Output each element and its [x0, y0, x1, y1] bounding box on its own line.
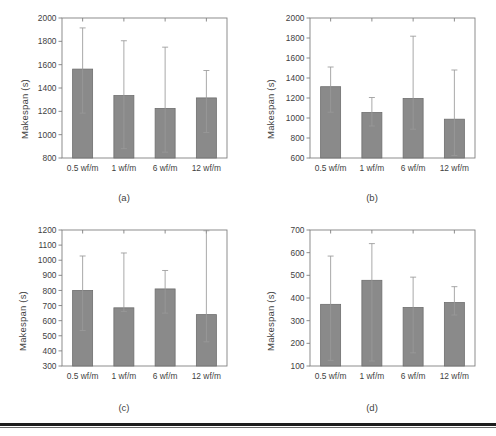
panel-a-caption: (a) — [0, 192, 248, 203]
y-tick-label: 800 — [43, 286, 57, 296]
bar — [114, 308, 134, 366]
panel-b-chart: 6008001000120014001600180020000.5 wf/m1 … — [270, 10, 478, 188]
x-category-label: 1 wf/m — [112, 371, 137, 381]
panel-c-caption: (c) — [0, 402, 248, 413]
x-category-label: 6 wf/m — [153, 371, 178, 381]
y-tick-label: 1800 — [286, 33, 305, 43]
x-category-label: 0.5 wf/m — [67, 163, 99, 173]
panel-b-plot-area: 6008001000120014001600180020000.5 wf/m1 … — [270, 10, 478, 188]
panel-d-chart: 1002003004005006007000.5 wf/m1 wf/m6 wf/… — [270, 222, 478, 394]
y-tick-label: 1200 — [38, 106, 57, 116]
x-category-label: 1 wf/m — [360, 163, 385, 173]
x-category-label: 12 wf/m — [192, 163, 221, 173]
y-tick-label: 1600 — [38, 60, 57, 70]
x-category-label: 0.5 wf/m — [315, 371, 347, 381]
y-tick-label: 300 — [291, 316, 305, 326]
x-category-label: 12 wf/m — [192, 371, 221, 381]
y-tick-label: 600 — [291, 248, 305, 258]
x-category-label: 12 wf/m — [440, 371, 469, 381]
panel-c: Makespan (s) 300400500600700800900100011… — [0, 212, 248, 430]
footer-divider-rule-secondary — [0, 427, 496, 428]
y-tick-label: 200 — [291, 338, 305, 348]
panel-a: Makespan (s) 800100012001400160018002000… — [0, 0, 248, 218]
y-tick-label: 2000 — [286, 13, 305, 23]
y-tick-label: 2000 — [38, 13, 57, 23]
y-tick-label: 400 — [43, 346, 57, 356]
y-tick-label: 800 — [291, 133, 305, 143]
panel-d: Makespan (s) 1002003004005006007000.5 wf… — [248, 212, 496, 430]
y-tick-label: 300 — [43, 361, 57, 371]
panel-a-plot-area: 8001000120014001600180020000.5 wf/m1 wf/… — [22, 10, 230, 188]
panel-d-plot-area: 1002003004005006007000.5 wf/m1 wf/m6 wf/… — [270, 222, 478, 394]
y-tick-label: 1100 — [38, 240, 56, 250]
y-tick-label: 800 — [43, 153, 57, 163]
x-category-label: 0.5 wf/m — [67, 371, 99, 381]
panel-a-chart: 8001000120014001600180020000.5 wf/m1 wf/… — [22, 10, 230, 188]
y-tick-label: 1000 — [286, 113, 305, 123]
x-category-label: 0.5 wf/m — [315, 163, 347, 173]
y-tick-label: 1200 — [38, 225, 57, 235]
y-tick-label: 1000 — [38, 130, 57, 140]
panel-b-caption: (b) — [248, 192, 496, 203]
y-tick-label: 700 — [43, 301, 57, 311]
y-tick-label: 1400 — [38, 83, 57, 93]
panel-c-chart: 3004005006007008009001000110012000.5 wf/… — [22, 222, 230, 394]
x-category-label: 6 wf/m — [401, 163, 426, 173]
footer-clipped-text — [0, 430, 496, 436]
y-tick-label: 400 — [291, 293, 305, 303]
panel-c-plot-area: 3004005006007008009001000110012000.5 wf/… — [22, 222, 230, 394]
figure-four-panel-bar-charts: Makespan (s) 800100012001400160018002000… — [0, 0, 496, 436]
x-category-label: 1 wf/m — [360, 371, 385, 381]
y-tick-label: 500 — [43, 331, 57, 341]
y-tick-label: 600 — [43, 316, 57, 326]
y-tick-label: 700 — [291, 225, 305, 235]
y-tick-label: 1600 — [286, 53, 305, 63]
panel-b: Makespan (s) 600800100012001400160018002… — [248, 0, 496, 218]
x-category-label: 1 wf/m — [112, 163, 137, 173]
y-tick-label: 1000 — [38, 255, 57, 265]
error-bar — [121, 253, 127, 312]
y-tick-label: 1400 — [286, 73, 305, 83]
y-tick-label: 100 — [291, 361, 305, 371]
y-tick-label: 500 — [291, 270, 305, 280]
y-tick-label: 1200 — [286, 93, 305, 103]
x-category-label: 6 wf/m — [401, 371, 426, 381]
panel-d-caption: (d) — [248, 402, 496, 413]
y-tick-label: 600 — [291, 153, 305, 163]
x-category-label: 6 wf/m — [153, 163, 178, 173]
y-tick-label: 900 — [43, 270, 57, 280]
y-tick-label: 1800 — [38, 36, 57, 46]
x-category-label: 12 wf/m — [440, 163, 469, 173]
footer-divider-rule — [0, 423, 496, 426]
